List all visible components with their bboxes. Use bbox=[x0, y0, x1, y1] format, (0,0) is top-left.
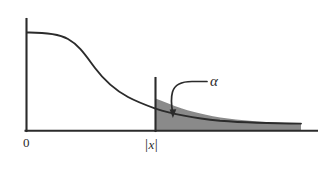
alpha-tail-label: α bbox=[210, 74, 218, 89]
critical-value-label: |x| bbox=[145, 137, 158, 152]
statistical-density-figure: 0 |x| α bbox=[0, 0, 330, 169]
critical-value-variable: x bbox=[148, 137, 155, 152]
origin-label: 0 bbox=[23, 136, 30, 149]
density-plot-svg bbox=[0, 0, 330, 169]
absolute-bar-right: | bbox=[155, 136, 158, 152]
